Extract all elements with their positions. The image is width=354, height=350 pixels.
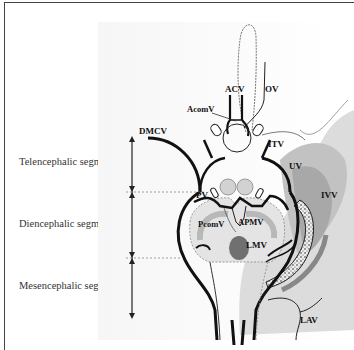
ov-label: OV [265, 84, 279, 94]
ivv-label: IVV [321, 190, 338, 200]
thalamus-bulb-right [237, 179, 253, 195]
itv-label: ITV [268, 139, 285, 149]
acomv-label: AcomV [187, 104, 215, 114]
dmcv-label: DMCV [139, 126, 167, 136]
apmv-label: APMV [238, 217, 264, 227]
lav-label: LAV [300, 315, 318, 325]
pcomv-label: PcomV [198, 219, 225, 229]
thalamus-bulb-left [220, 179, 236, 195]
acv-label: ACV [225, 84, 245, 94]
uv-label: UV [289, 161, 302, 171]
venous-anatomy-diagram: ACV OV AcomV DMCV ITV UV IVV PV PcomV AP… [0, 0, 354, 350]
pv-label: PV [196, 190, 208, 200]
lmv-label: LMV [246, 240, 267, 250]
